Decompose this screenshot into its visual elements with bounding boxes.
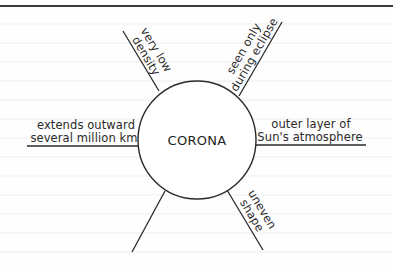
label-right: outer layer of Sun's atmosphere	[257, 117, 362, 144]
corona-concept-web: CORONA extends outward several million k…	[0, 0, 393, 271]
center-label: CORONA	[168, 133, 227, 148]
svg-text:extends outward: extends outward	[37, 118, 135, 132]
spoke-lower-left	[132, 191, 165, 252]
diagram-canvas: CORONA extends outward several million k…	[0, 0, 393, 271]
svg-text:several million km: several million km	[30, 131, 137, 145]
svg-text:outer layer of: outer layer of	[271, 117, 351, 131]
label-upper-left: very low density	[127, 25, 175, 81]
svg-text:Sun's atmosphere: Sun's atmosphere	[257, 130, 362, 144]
label-left: extends outward several million km	[30, 118, 137, 145]
